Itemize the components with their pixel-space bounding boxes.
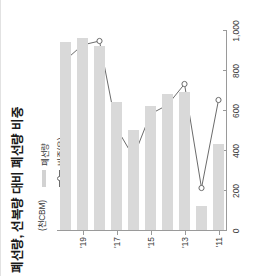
line-data-point xyxy=(97,38,102,43)
bar-segment xyxy=(145,106,156,230)
value-axis-unit-label: (천CBM) xyxy=(35,200,47,231)
category-axis-tick xyxy=(83,231,84,235)
rotated-figure-wrapper: 폐선량, 선복량 대비 폐선량 비중 (천CBM) 폐선량 비중(우) 0200… xyxy=(1,0,278,275)
category-axis-tick xyxy=(185,231,186,235)
value-axis-tick xyxy=(223,70,227,71)
legend-item-bar: 폐선량 xyxy=(37,138,50,187)
chart-title: 폐선량, 선복량 대비 폐선량 비중 xyxy=(7,1,26,273)
category-axis-tick-label: '15 xyxy=(146,237,156,257)
category-axis-tick xyxy=(219,231,220,235)
bar-segment xyxy=(179,92,190,230)
line-series-path xyxy=(66,41,219,188)
bar-segment xyxy=(111,102,122,230)
line-data-point xyxy=(199,185,204,190)
plot-area: 02004006008001,000'11'13'15'17'19 xyxy=(57,31,227,231)
bar-segment xyxy=(94,46,105,230)
value-axis-tick xyxy=(223,30,227,31)
category-axis-tick xyxy=(151,231,152,235)
line-data-point xyxy=(182,81,187,86)
bar-segment xyxy=(128,130,139,230)
bar-swatch-icon xyxy=(42,170,46,187)
category-axis-tick-label: '11 xyxy=(214,237,224,257)
value-axis-tick-label: 0 xyxy=(231,229,241,234)
category-axis-tick-label: '19 xyxy=(78,237,88,257)
legend-label-bar: 폐선량 xyxy=(38,143,50,166)
bar-segment xyxy=(162,94,173,230)
bar-segment xyxy=(60,42,71,230)
chart-figure: 폐선량, 선복량 대비 폐선량 비중 (천CBM) 폐선량 비중(우) 0200… xyxy=(1,0,278,275)
bar-segment xyxy=(77,38,88,230)
category-axis-tick-label: '13 xyxy=(180,237,190,257)
value-axis-tick-label: 800 xyxy=(231,64,241,78)
category-axis-tick-label: '17 xyxy=(112,237,122,257)
value-axis-tick-label: 600 xyxy=(231,104,241,118)
value-axis-tick xyxy=(223,230,227,231)
bar-segment xyxy=(196,206,207,230)
value-axis-tick xyxy=(223,110,227,111)
line-data-point xyxy=(216,97,221,102)
value-axis-tick-label: 1,000 xyxy=(231,20,241,41)
value-axis-tick-label: 200 xyxy=(231,184,241,198)
bar-segment xyxy=(213,144,224,230)
value-axis-tick-label: 400 xyxy=(231,144,241,158)
category-axis-tick xyxy=(117,231,118,235)
screenshot-canvas: 폐선량, 선복량 대비 폐선량 비중 (천CBM) 폐선량 비중(우) 0200… xyxy=(0,0,278,276)
